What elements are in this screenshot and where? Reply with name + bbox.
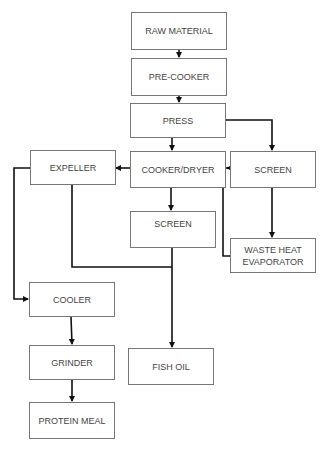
node-label: PRE-COOKER [149,71,210,83]
node-expeller: EXPELLER [30,150,116,185]
node-label: COOLER [53,294,91,306]
node-label-line1: WASTE HEAT [244,244,302,256]
node-screen-middle: SCREEN [130,211,216,248]
node-fish-oil: FISH OIL [128,348,214,385]
node-label: FISH OIL [152,361,190,373]
node-label: GRINDER [51,357,93,369]
node-label: PROTEIN MEAL [38,415,105,427]
edge-press-to-screen-right [226,120,272,150]
node-label: SCREEN [154,218,192,230]
edge-cooler-to-grinder [71,317,72,344]
node-label: COOKER/DRYER [142,164,215,176]
node-screen-right: SCREEN [230,151,316,188]
node-label: PRESS [163,115,194,127]
node-cooler: COOLER [29,282,115,317]
node-cooker-dryer: COOKER/DRYER [130,151,226,188]
node-pre-cooker: PRE-COOKER [131,58,227,96]
node-protein-meal: PROTEIN MEAL [29,402,115,439]
node-label: EXPELLER [50,162,97,174]
node-press: PRESS [130,103,226,138]
node-raw-material: RAW MATERIAL [131,12,227,50]
node-grinder: GRINDER [29,345,115,380]
edge-expeller-to-cooler [14,168,30,299]
node-label: RAW MATERIAL [145,25,213,37]
node-label: SCREEN [254,164,292,176]
node-label-line2: EVAPORATOR [242,256,303,268]
node-waste-heat-evaporator: WASTE HEAT EVAPORATOR [230,238,316,273]
